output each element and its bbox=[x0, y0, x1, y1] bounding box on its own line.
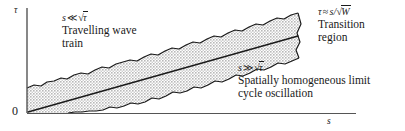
y-axis-label: τ bbox=[14, 5, 17, 15]
formula-operator: ≫ bbox=[242, 62, 254, 73]
annotation-formula: s≪√τ bbox=[62, 12, 137, 24]
formula-mid: s/ bbox=[329, 6, 336, 17]
x-axis-label: s bbox=[327, 116, 331, 126]
annotation-formula: τ≈s/√W bbox=[318, 6, 365, 18]
annotation-caption-line1: Spatially homogeneous limit bbox=[238, 74, 370, 88]
formula-radicand: W bbox=[341, 5, 351, 17]
annotation-caption-line1: Transition bbox=[318, 18, 365, 32]
origin-label: 0 bbox=[12, 104, 18, 119]
formula-operator: ≪ bbox=[66, 12, 78, 23]
regime-diagram-figure: τ s 0 s≪√τ Travelling wave train τ≈s/√W … bbox=[0, 0, 405, 131]
annotation-caption-line2: cycle oscillation bbox=[238, 87, 370, 101]
annotation-caption-line1: Travelling wave bbox=[62, 24, 137, 38]
annotation-caption-line2: train bbox=[62, 37, 137, 51]
annotation-transition-region: τ≈s/√W Transition region bbox=[318, 6, 365, 45]
annotation-caption-line2: region bbox=[318, 31, 365, 45]
annotation-limit-cycle-oscillation: s≫√τ Spatially homogeneous limit cycle o… bbox=[238, 62, 370, 101]
formula-radicand: τ bbox=[259, 61, 264, 73]
formula-radicand: τ bbox=[83, 11, 88, 23]
annotation-travelling-wave-train: s≪√τ Travelling wave train bbox=[62, 12, 137, 51]
annotation-formula: s≫√τ bbox=[238, 62, 370, 74]
